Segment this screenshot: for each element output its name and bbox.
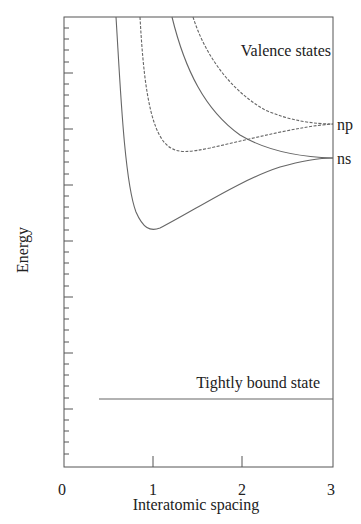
np-antibonding-curve [193,17,333,124]
valence-states-label: Valence states [241,42,331,59]
np-label: np [337,116,353,134]
x-axis-ticks [153,456,242,467]
energy-level-chart: Valence states np ns Tightly bound state… [0,0,361,524]
ns-label: ns [337,150,351,167]
y-axis-ticks [64,28,73,454]
x-tick-3: 3 [327,481,335,498]
x-tick-0: 0 [58,481,66,498]
x-axis-label: Interatomic spacing [133,496,260,514]
np-bonding-curve [140,17,333,152]
tightly-bound-label: Tightly bound state [196,374,320,392]
ns-antibonding-curve [172,17,333,158]
y-axis-label: Energy [14,227,32,273]
